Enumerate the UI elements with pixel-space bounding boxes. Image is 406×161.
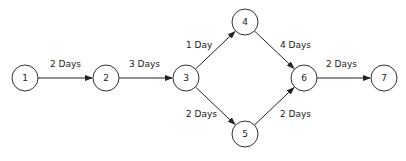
edge-arrow-3-4: [195, 32, 234, 69]
edge-label-4-6: 4 Days: [280, 40, 311, 50]
node-label: 7: [381, 73, 387, 83]
node-3: 3: [173, 65, 199, 91]
node-label: 1: [22, 73, 28, 83]
edges-group: 2 Days3 Days1 Day2 Days4 Days2 Days2 Day…: [38, 31, 370, 125]
edge-label-2-3: 3 Days: [129, 59, 160, 69]
edge-label-1-2: 2 Days: [50, 59, 81, 69]
edge-label-3-5: 2 Days: [186, 109, 217, 119]
node-label: 2: [103, 73, 109, 83]
node-4: 4: [232, 9, 258, 35]
node-5: 5: [232, 121, 258, 147]
node-label: 4: [242, 17, 248, 27]
node-6: 6: [291, 65, 317, 91]
edge-label-3-4: 1 Day: [186, 40, 213, 50]
node-label: 5: [242, 129, 248, 139]
edge-arrow-5-6: [254, 88, 293, 125]
node-label: 6: [301, 73, 307, 83]
edge-label-5-6: 2 Days: [280, 109, 311, 119]
node-2: 2: [93, 65, 119, 91]
network-diagram: 2 Days3 Days1 Day2 Days4 Days2 Days2 Day…: [0, 0, 406, 161]
node-7: 7: [371, 65, 397, 91]
edge-label-6-7: 2 Days: [326, 59, 357, 69]
node-label: 3: [183, 73, 189, 83]
node-1: 1: [12, 65, 38, 91]
